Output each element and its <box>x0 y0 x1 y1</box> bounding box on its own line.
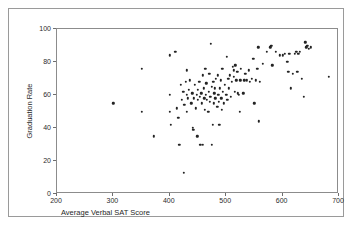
data-point <box>112 102 114 104</box>
data-point <box>193 97 195 99</box>
data-point <box>232 66 234 68</box>
data-point <box>307 48 309 50</box>
x-tick-mark <box>169 193 170 196</box>
x-tick-mark <box>282 193 283 196</box>
data-point <box>180 84 182 86</box>
x-tick-label: 300 <box>107 197 119 204</box>
y-tick-label: 0 <box>47 190 51 197</box>
data-point <box>262 62 264 64</box>
data-point <box>192 128 194 130</box>
data-point <box>175 107 177 109</box>
data-point <box>205 82 207 84</box>
data-point <box>212 81 214 83</box>
data-point <box>284 53 286 55</box>
data-point <box>275 51 277 53</box>
data-point <box>186 110 188 112</box>
data-point <box>210 86 212 88</box>
data-point <box>259 81 261 83</box>
x-tick-mark <box>225 193 226 196</box>
data-point <box>182 90 184 92</box>
y-tick-label: 20 <box>43 157 51 164</box>
data-point <box>214 87 216 89</box>
y-tick-mark <box>53 160 56 161</box>
data-point <box>296 71 298 73</box>
data-point <box>286 61 288 63</box>
data-point <box>240 67 242 69</box>
data-point <box>217 74 219 76</box>
data-point <box>248 69 250 71</box>
data-point <box>219 79 221 81</box>
data-point <box>174 51 176 53</box>
data-point <box>198 81 200 83</box>
data-point <box>213 102 215 104</box>
figure-frame: 020406080100 200300400500600700 Graduati… <box>8 8 344 217</box>
data-points-layer <box>57 29 337 192</box>
data-point <box>233 76 235 78</box>
data-point <box>239 79 241 81</box>
data-point <box>187 97 189 99</box>
data-point <box>204 109 206 111</box>
data-point <box>217 94 219 96</box>
data-point <box>228 74 230 76</box>
plot-area <box>56 28 338 193</box>
data-point <box>216 105 218 107</box>
y-tick-label: 60 <box>43 91 51 98</box>
data-point <box>239 110 241 112</box>
data-point <box>204 67 206 69</box>
data-point <box>271 64 273 66</box>
data-point <box>193 84 195 86</box>
data-point <box>188 89 190 91</box>
y-tick-mark <box>53 127 56 128</box>
x-tick-mark <box>112 193 113 196</box>
data-point <box>224 84 226 86</box>
data-point <box>177 117 179 119</box>
data-point <box>196 135 198 137</box>
data-point <box>223 102 225 104</box>
data-point <box>202 74 204 76</box>
data-point <box>209 100 211 102</box>
data-point <box>266 51 268 53</box>
data-point <box>186 69 188 71</box>
data-point <box>237 94 239 96</box>
data-point <box>220 109 222 111</box>
data-point <box>221 67 223 69</box>
data-point <box>140 67 142 69</box>
y-tick-label: 40 <box>43 124 51 131</box>
data-point <box>183 171 185 173</box>
x-tick-mark <box>56 193 57 196</box>
data-point <box>210 43 212 45</box>
data-point <box>222 90 224 92</box>
x-tick-mark <box>338 193 339 196</box>
data-point <box>215 77 217 79</box>
data-point <box>304 41 306 43</box>
data-point <box>218 123 220 125</box>
data-point <box>197 99 199 101</box>
data-point <box>191 92 193 94</box>
data-point <box>231 81 233 83</box>
data-point <box>208 90 210 92</box>
data-point <box>200 92 202 94</box>
data-point <box>250 77 252 79</box>
data-point <box>230 95 232 97</box>
data-point <box>226 56 228 58</box>
x-axis-title: Average Verbal SAT Score <box>61 208 150 217</box>
data-point <box>198 95 200 97</box>
data-point <box>186 94 188 96</box>
data-point <box>211 123 213 125</box>
y-tick-mark <box>53 94 56 95</box>
data-point <box>202 87 204 89</box>
data-point <box>183 104 185 106</box>
data-point <box>249 81 251 83</box>
data-point <box>281 54 283 56</box>
data-point <box>213 92 215 94</box>
data-point <box>228 87 230 89</box>
data-point <box>218 100 220 102</box>
y-axis-title-text: Graduation Rate <box>25 83 34 138</box>
data-point <box>328 76 330 78</box>
data-point <box>190 102 192 104</box>
data-point <box>244 72 246 74</box>
data-point <box>209 95 211 97</box>
y-tick-label: 100 <box>39 25 51 32</box>
y-axis-title: Graduation Rate <box>23 28 35 193</box>
data-point <box>252 57 254 59</box>
